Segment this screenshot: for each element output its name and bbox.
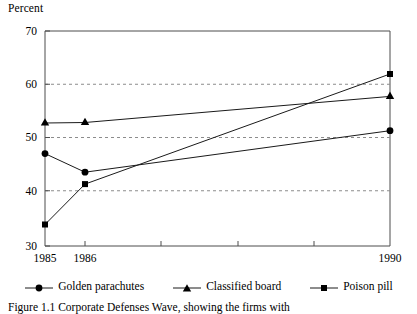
y-axis-ticks (45, 31, 50, 246)
series-classified-board (41, 92, 394, 126)
chart-legend: Golden parachutes Classified board Poiso… (0, 277, 417, 295)
figure-caption: Figure 1.1 Corporate Defenses Wave, show… (8, 301, 413, 314)
y-tick-label-40: 40 (11, 185, 37, 197)
circle-marker-icon (24, 280, 54, 292)
x-axis-ticks (85, 241, 314, 246)
x-tick-label-1985: 1985 (30, 252, 60, 264)
x-tick-label-1986: 1986 (70, 252, 100, 264)
x-tick-label-1990: 1990 (375, 252, 405, 264)
legend-label-poison-pill: Poison pill (339, 280, 393, 292)
y-tick-label-60: 60 (11, 78, 37, 90)
legend-item-poison-pill: Poison pill (309, 280, 393, 292)
legend-label-golden-parachutes: Golden parachutes (54, 280, 144, 292)
series-poison-pill (42, 71, 393, 228)
legend-item-golden-parachutes: Golden parachutes (24, 280, 144, 292)
series-golden-parachutes (42, 127, 394, 175)
legend-item-classified-board: Classified board (172, 280, 281, 292)
y-tick-label-30: 30 (11, 240, 37, 252)
legend-label-classified-board: Classified board (202, 280, 281, 292)
plot-frame (45, 31, 390, 246)
triangle-marker-icon (172, 280, 202, 292)
y-tick-label-50: 50 (11, 131, 37, 143)
y-tick-label-70: 70 (11, 25, 37, 37)
square-marker-icon (309, 280, 339, 292)
